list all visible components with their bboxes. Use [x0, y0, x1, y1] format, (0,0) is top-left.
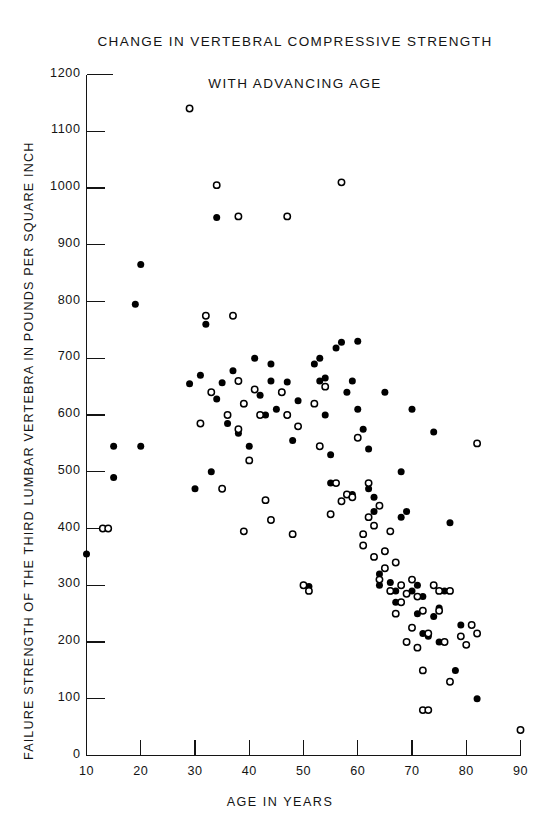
data-point-filled	[446, 519, 453, 526]
data-point-open	[420, 667, 426, 673]
data-point-open	[365, 514, 371, 520]
data-point-filled	[452, 667, 459, 674]
data-point-filled	[365, 446, 372, 453]
data-point-open	[447, 588, 453, 594]
data-point-filled	[322, 375, 329, 382]
data-point-filled	[381, 389, 388, 396]
data-point-filled	[110, 443, 117, 450]
data-point-filled	[213, 396, 220, 403]
data-point-open	[414, 644, 420, 650]
y-tick-label: 0	[35, 747, 81, 761]
data-point-open	[360, 542, 366, 548]
data-point-open	[393, 559, 399, 565]
data-point-filled	[208, 468, 215, 475]
data-point-filled	[430, 613, 437, 620]
data-point-open	[431, 582, 437, 588]
data-point-filled	[137, 261, 144, 268]
data-point-open	[382, 548, 388, 554]
data-point-filled	[457, 621, 464, 628]
data-point-open	[224, 412, 230, 418]
data-point-open	[382, 565, 388, 571]
data-point-open	[403, 591, 409, 597]
data-point-open	[268, 517, 274, 523]
data-point-filled	[257, 392, 264, 399]
data-point-open	[441, 639, 447, 645]
data-point-open	[420, 608, 426, 614]
data-point-open	[333, 480, 339, 486]
data-point-open	[235, 426, 241, 432]
data-point-filled	[219, 379, 226, 386]
data-point-filled	[137, 443, 144, 450]
data-point-filled	[338, 339, 345, 346]
data-point-filled	[284, 379, 291, 386]
data-point-filled	[349, 377, 356, 384]
data-point-open	[398, 582, 404, 588]
data-point-open	[284, 412, 290, 418]
data-point-open	[371, 554, 377, 560]
data-point-open	[376, 503, 382, 509]
data-point-filled	[316, 355, 323, 362]
x-tick-label: 80	[446, 764, 486, 778]
data-point-filled	[224, 420, 231, 427]
data-point-open	[105, 525, 111, 531]
data-point-filled	[192, 485, 199, 492]
x-tick-label: 40	[229, 764, 269, 778]
data-point-open	[393, 610, 399, 616]
y-tick-label: 1000	[35, 179, 81, 193]
x-tick-label: 20	[121, 764, 161, 778]
data-point-open	[257, 412, 263, 418]
y-tick-label: 100	[35, 690, 81, 704]
data-point-open	[235, 378, 241, 384]
data-point-filled	[273, 406, 280, 413]
data-point-filled	[333, 345, 340, 352]
data-point-filled	[387, 579, 394, 586]
data-point-open	[322, 383, 328, 389]
data-point-open	[517, 727, 523, 733]
chart-figure: CHANGE IN VERTEBRAL COMPRESSIVE STRENGTH…	[0, 0, 560, 828]
data-point-open	[436, 608, 442, 614]
x-tick-label: 10	[67, 764, 107, 778]
data-point-filled	[371, 494, 378, 501]
data-point-open	[387, 528, 393, 534]
data-point-filled	[267, 360, 274, 367]
data-point-open	[279, 389, 285, 395]
data-point-filled	[83, 551, 90, 558]
data-point-open	[186, 105, 192, 111]
x-tick-label: 70	[392, 764, 432, 778]
x-tick-label: 30	[175, 764, 215, 778]
data-point-open	[241, 528, 247, 534]
data-point-open	[371, 522, 377, 528]
data-point-open	[349, 494, 355, 500]
y-tick-label: 400	[35, 520, 81, 534]
data-point-open	[436, 588, 442, 594]
data-point-open	[235, 213, 241, 219]
data-point-filled	[403, 508, 410, 515]
data-point-open	[262, 497, 268, 503]
x-tick-label: 60	[338, 764, 378, 778]
data-point-filled	[322, 412, 329, 419]
data-point-open	[338, 498, 344, 504]
data-point-filled	[360, 426, 367, 433]
data-point-open	[246, 457, 252, 463]
x-tick-label: 50	[284, 764, 324, 778]
data-point-open	[251, 386, 257, 392]
data-point-open	[387, 588, 393, 594]
data-point-filled	[398, 468, 405, 475]
data-point-open	[317, 443, 323, 449]
data-point-open	[289, 531, 295, 537]
data-point-open	[425, 630, 431, 636]
data-point-open	[230, 312, 236, 318]
data-point-filled	[311, 360, 318, 367]
data-point-open	[327, 511, 333, 517]
data-point-filled	[409, 406, 416, 413]
data-point-open	[311, 400, 317, 406]
data-point-filled	[414, 582, 421, 589]
data-point-open	[203, 312, 209, 318]
data-point-filled	[354, 406, 361, 413]
data-point-filled	[251, 355, 258, 362]
y-tick-label: 300	[35, 576, 81, 590]
y-tick-label: 500	[35, 463, 81, 477]
y-tick-label: 700	[35, 349, 81, 363]
data-point-filled	[295, 397, 302, 404]
data-point-filled	[246, 443, 253, 450]
